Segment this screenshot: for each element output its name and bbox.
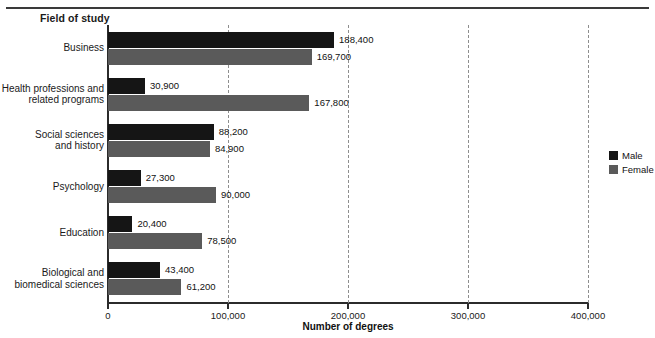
- x-axis-tick: [467, 303, 469, 309]
- legend-swatch-female: [609, 165, 618, 174]
- category-label: Business: [0, 42, 104, 54]
- category-label: Health professions and related programs: [0, 83, 104, 106]
- bar-value-female: 90,000: [221, 187, 250, 203]
- gridline: [588, 25, 589, 303]
- bar-female: [108, 141, 210, 157]
- bar-value-male: 43,400: [165, 262, 194, 278]
- bar-value-female: 61,200: [186, 279, 215, 295]
- legend-item-label: Male: [622, 150, 643, 161]
- bar-male: [108, 32, 334, 48]
- bar-value-male: 27,300: [146, 170, 175, 186]
- bar-chart: Field of study 0100,000200,000300,000400…: [0, 0, 655, 338]
- legend: MaleFemale: [609, 148, 654, 176]
- bar-value-female: 167,800: [314, 95, 348, 111]
- bar-male: [108, 78, 145, 94]
- bar-value-female: 78,500: [207, 233, 236, 249]
- bar-value-female: 169,700: [317, 49, 351, 65]
- x-axis-tick-label: 300,000: [451, 310, 485, 321]
- legend-item-label: Female: [622, 164, 654, 175]
- gridline: [468, 25, 469, 303]
- bar-female: [108, 49, 312, 65]
- x-axis-tick-label: 400,000: [571, 310, 605, 321]
- x-axis-tick: [227, 303, 229, 309]
- x-axis-title: Number of degrees: [302, 321, 393, 332]
- plot-area: 0100,000200,000300,000400,000 BusinessHe…: [0, 0, 655, 338]
- gridline: [228, 25, 229, 303]
- x-axis-tick: [347, 303, 349, 309]
- bar-value-female: 84,900: [215, 141, 244, 157]
- category-label: Education: [0, 227, 104, 239]
- x-axis-tick-label: 200,000: [331, 310, 365, 321]
- category-label: Social sciences and history: [0, 129, 104, 152]
- category-label: Biological and biomedical sciences: [0, 267, 104, 290]
- x-axis-tick-label: 100,000: [211, 310, 245, 321]
- y-axis-line: [107, 25, 109, 303]
- bar-male: [108, 124, 214, 140]
- x-axis-tick-label: 0: [105, 310, 110, 321]
- bar-female: [108, 279, 181, 295]
- legend-swatch-male: [609, 151, 618, 160]
- bar-value-male: 20,400: [137, 216, 166, 232]
- gridline: [348, 25, 349, 303]
- category-label: Psychology: [0, 181, 104, 193]
- bar-male: [108, 262, 160, 278]
- bar-value-male: 188,400: [339, 32, 373, 48]
- x-axis-tick: [587, 303, 589, 309]
- bar-female: [108, 95, 309, 111]
- bar-male: [108, 170, 141, 186]
- bar-value-male: 88,200: [219, 124, 248, 140]
- bar-female: [108, 187, 216, 203]
- legend-item: Female: [609, 162, 654, 176]
- x-axis-tick: [107, 303, 109, 309]
- legend-item: Male: [609, 148, 654, 162]
- bar-value-male: 30,900: [150, 78, 179, 94]
- bar-female: [108, 233, 202, 249]
- bar-male: [108, 216, 132, 232]
